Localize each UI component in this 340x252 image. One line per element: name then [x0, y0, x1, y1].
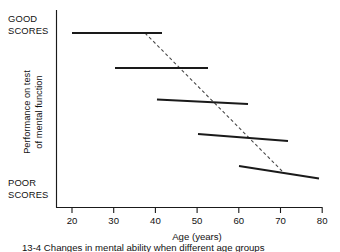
cohort-segment-4 — [198, 134, 288, 141]
x-tick-label-70: 70 — [275, 215, 286, 226]
y-axis-bottom-label: POOR SCORES — [8, 177, 49, 200]
x-axis-title: Age (years) — [172, 231, 222, 242]
good-scores-line1: GOOD — [8, 13, 37, 24]
poor-scores-line2: SCORES — [8, 189, 49, 200]
x-tick-label-60: 60 — [233, 215, 244, 226]
y-axis-title: Performance on test of mental function — [22, 70, 44, 154]
good-scores-line2: SCORES — [8, 25, 49, 36]
mental-function-vs-age-chart: 20 30 40 50 60 70 80 Age (years) GOOD SC… — [0, 0, 340, 252]
x-tick-label-80: 80 — [317, 215, 328, 226]
x-tick-label-30: 30 — [108, 215, 119, 226]
cohort-segments-group — [72, 33, 319, 179]
y-axis-title-line2: of mental function — [34, 75, 44, 148]
axes-group — [56, 10, 323, 208]
y-axis-top-label: GOOD SCORES — [8, 13, 49, 36]
cohort-segment-5 — [239, 166, 319, 179]
x-axis-tick-labels: 20 30 40 50 60 70 80 — [67, 215, 328, 226]
y-axis-title-line1: Performance on test — [22, 70, 32, 154]
figure-caption: 13-4 Changes in mental ability when diff… — [0, 243, 340, 252]
x-axis-ticks — [72, 208, 322, 214]
x-tick-label-20: 20 — [67, 215, 78, 226]
cohort-segment-3 — [157, 100, 248, 105]
figure-caption-text: 13-4 Changes in mental ability when diff… — [22, 243, 265, 252]
x-tick-label-40: 40 — [150, 215, 161, 226]
x-tick-label-50: 50 — [192, 215, 203, 226]
chart-figure: 20 30 40 50 60 70 80 Age (years) GOOD SC… — [0, 0, 340, 252]
poor-scores-line1: POOR — [8, 177, 36, 188]
